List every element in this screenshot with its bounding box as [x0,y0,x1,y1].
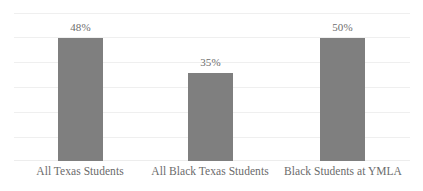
bar-value-1: 35% [200,56,220,68]
bar-slot-1: 35% [188,13,233,161]
bar-chart: 48% 35% 50% All Texas Students All Black… [0,0,423,191]
bar-all-texas-students[interactable] [58,38,103,161]
category-axis: All Texas Students All Black Texas Stude… [14,165,410,185]
bar-black-students-at-ymla[interactable] [320,38,365,161]
bar-slot-0: 48% [58,13,103,161]
bar-series: 48% 35% 50% [14,13,410,161]
category-label-black-students-at-ymla: Black Students at YMLA [263,165,423,177]
bar-value-0: 48% [70,21,90,33]
bar-value-2: 50% [332,21,352,33]
plot-area: 48% 35% 50% [14,13,410,161]
bar-all-black-texas-students[interactable] [188,73,233,161]
bar-slot-2: 50% [320,13,365,161]
